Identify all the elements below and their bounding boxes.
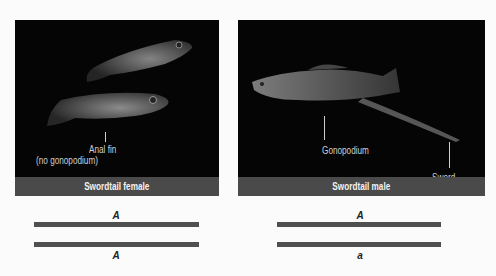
sword-leader-line xyxy=(449,142,450,168)
gonopodium-leader-line xyxy=(324,116,325,140)
male-caption: Swordtail male xyxy=(238,177,485,196)
no-gonopodium-label: (no gonopodium) xyxy=(36,155,112,166)
female-caption: Swordtail female xyxy=(15,177,219,196)
male-swordtail-fish-illustration xyxy=(238,20,485,196)
female-top-allele: A xyxy=(106,210,126,221)
female-swordtail-fish-illustration xyxy=(15,20,219,196)
male-bottom-allele: a xyxy=(350,250,370,261)
anal-fin-leader-line xyxy=(105,132,106,142)
anal-fin-label: Anal fin xyxy=(89,144,122,155)
female-bottom-allele: A xyxy=(106,250,126,261)
male-photo-panel: Gonopodium Sword Swordtail male xyxy=(238,20,485,196)
male-chromosome-bottom xyxy=(277,242,441,247)
gonopodium-label: Gonopodium xyxy=(322,145,379,156)
female-chromosome-top xyxy=(34,222,199,227)
female-photo-panel: Anal fin (no gonopodium) Swordtail femal… xyxy=(15,20,219,196)
female-chromosome-bottom xyxy=(34,242,199,247)
male-chromosome-top xyxy=(277,222,441,227)
male-top-allele: A xyxy=(350,210,370,221)
